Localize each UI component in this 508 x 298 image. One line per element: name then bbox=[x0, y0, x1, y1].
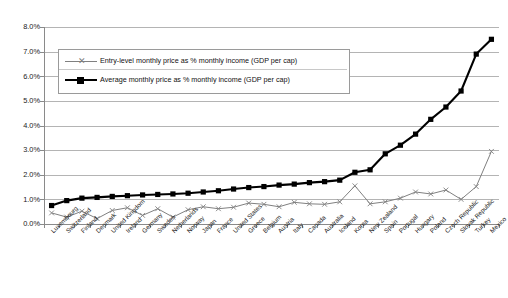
y-axis-tick bbox=[40, 27, 44, 28]
legend-entry-average: Average monthly price as % monthly incom… bbox=[65, 73, 290, 87]
x-axis-category-label: Italy bbox=[292, 222, 305, 235]
legend-divider bbox=[59, 69, 347, 70]
broadband-affordability-chart: 0.0%1.0%2.0%3.0%4.0%5.0%6.0%7.0%8.0% Lux… bbox=[0, 0, 508, 298]
y-axis-tick bbox=[40, 150, 44, 151]
y-axis-tick bbox=[40, 101, 44, 102]
y-axis-tick bbox=[40, 175, 44, 176]
y-axis-tick bbox=[40, 199, 44, 200]
chart-legend: ✕ Entry-level monthly price as % monthly… bbox=[58, 49, 350, 94]
legend-label-entry-level: Entry-level monthly price as % monthly i… bbox=[100, 57, 297, 65]
x-axis-category-labels: LuxembourgSwitzerlandFinlandDenmarkUnite… bbox=[0, 0, 508, 298]
x-axis-category-label: Mexico bbox=[489, 216, 508, 235]
legend-marker-square-icon bbox=[65, 75, 97, 85]
y-axis-tick bbox=[40, 52, 44, 53]
y-axis-tick bbox=[40, 76, 44, 77]
x-axis-category-label: France bbox=[216, 216, 234, 234]
legend-marker-x-icon: ✕ bbox=[65, 56, 97, 66]
y-axis-tick bbox=[40, 126, 44, 127]
y-axis-tick bbox=[40, 224, 44, 225]
legend-entry-entry-level: ✕ Entry-level monthly price as % monthly… bbox=[65, 54, 297, 68]
legend-label-average: Average monthly price as % monthly incom… bbox=[100, 76, 290, 84]
